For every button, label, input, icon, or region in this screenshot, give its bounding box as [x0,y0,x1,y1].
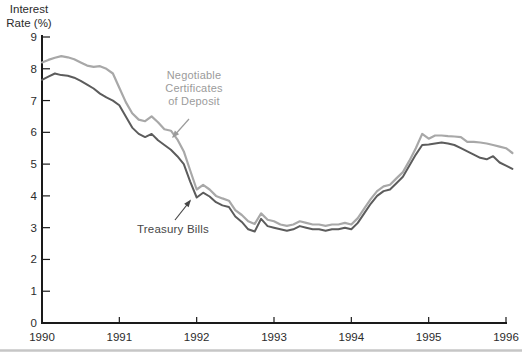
treasury-bills-label-arrow [175,198,193,220]
x-tick-label-1992: 1992 [184,331,210,343]
y-tick-label-0: 0 [31,317,37,329]
y-tick-label-2: 2 [31,253,37,265]
chart-svg: 19901991199219931994199519960123456789 [0,0,522,354]
y-tick-label-6: 6 [31,126,37,138]
treasury-bills-series-line [42,74,512,232]
x-tick-label-1995: 1995 [416,331,442,343]
cd-series-label-line3: of Deposit [143,95,245,108]
y-tick-label-9: 9 [31,31,37,43]
cd-series-line [42,56,512,226]
x-tick-label-1996: 1996 [493,331,519,343]
cd-series-label: Negotiable Certificates of Deposit [143,69,245,108]
y-tick-label-3: 3 [31,222,37,234]
cd-series-label-line1: Negotiable [143,69,245,82]
x-tick-label-1993: 1993 [261,331,287,343]
y-tick-label-5: 5 [31,158,37,170]
chart-page: 19901991199219931994199519960123456789 I… [0,0,522,354]
y-tick-label-1: 1 [31,285,37,297]
y-axis-title-line2: Rate (%) [2,16,56,30]
treasury-bills-series-label: Treasury Bills [137,223,209,235]
axis-ticks: 19901991199219931994199519960123456789 [29,31,519,343]
x-tick-label-1991: 1991 [107,331,133,343]
cd-series-label-line2: Certificates [143,82,245,95]
cd-label-arrow [170,119,189,140]
x-tick-label-1990: 1990 [29,331,55,343]
y-axis-title: Interest Rate (%) [2,2,56,30]
y-axis-title-line1: Interest [2,2,56,16]
x-tick-label-1994: 1994 [339,331,365,343]
y-tick-label-4: 4 [31,190,38,202]
y-tick-label-8: 8 [31,63,37,75]
y-tick-label-7: 7 [31,95,37,107]
